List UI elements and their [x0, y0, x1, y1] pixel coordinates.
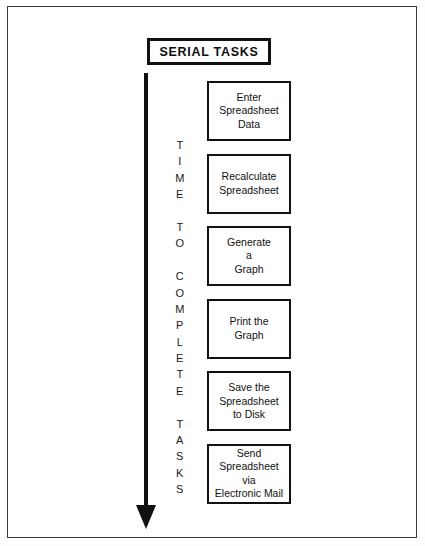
task-line: Electronic Mail: [215, 487, 283, 501]
axis-letter: P: [176, 317, 184, 333]
axis-letter: E: [176, 350, 184, 366]
axis-letter: E: [176, 383, 184, 399]
task-line: to Disk: [233, 408, 265, 422]
axis-letter: A: [176, 432, 184, 448]
task-line: Send: [237, 447, 262, 461]
task-line: Enter: [236, 91, 261, 105]
axis-letter: T: [176, 219, 183, 235]
down-arrow-icon: [128, 73, 164, 529]
task-line: a: [246, 249, 252, 263]
page-frame: SERIAL TASKS T I M E T O C O M P L E T E: [7, 6, 417, 538]
task-line: Recalculate: [222, 170, 277, 184]
axis-letter: S: [176, 481, 184, 497]
axis-letter: T: [176, 137, 183, 153]
diagram-title-box: SERIAL TASKS: [147, 38, 271, 65]
task-box: Recalculate Spreadsheet: [207, 154, 291, 214]
time-axis-label: T I M E T O C O M P L E T E T A S K S: [168, 137, 192, 498]
task-line: Spreadsheet: [219, 395, 279, 409]
axis-letter: S: [176, 448, 184, 464]
diagram-title: SERIAL TASKS: [160, 45, 259, 59]
task-box: Enter Spreadsheet Data: [207, 81, 291, 141]
task-line: via: [242, 474, 255, 488]
task-box: Generate a Graph: [207, 226, 291, 286]
task-box: Save the Spreadsheet to Disk: [207, 371, 291, 431]
axis-letter: M: [175, 301, 185, 317]
time-axis-arrow: [128, 73, 164, 529]
axis-letter: I: [178, 153, 182, 169]
task-box: Print the Graph: [207, 299, 291, 359]
axis-letter: C: [176, 268, 184, 284]
axis-letter: L: [177, 334, 184, 350]
task-line: Print the: [229, 315, 268, 329]
axis-letter: T: [176, 366, 183, 382]
axis-letter: T: [176, 416, 183, 432]
task-line: Spreadsheet: [219, 460, 279, 474]
task-line: Data: [238, 118, 260, 132]
axis-letter: K: [176, 465, 184, 481]
axis-letter: E: [176, 186, 184, 202]
task-line: Save the: [228, 381, 269, 395]
task-line: Spreadsheet: [219, 184, 279, 198]
task-box: Send Spreadsheet via Electronic Mail: [207, 444, 291, 504]
axis-letter: M: [175, 170, 185, 186]
task-line: Generate: [227, 236, 271, 250]
axis-letter: O: [175, 285, 184, 301]
diagram-canvas: SERIAL TASKS T I M E T O C O M P L E T E: [0, 0, 425, 546]
task-box-column: Enter Spreadsheet Data Recalculate Sprea…: [207, 81, 291, 517]
task-line: Graph: [234, 329, 263, 343]
task-line: Spreadsheet: [219, 104, 279, 118]
task-line: Graph: [234, 263, 263, 277]
axis-letter: O: [175, 235, 184, 251]
